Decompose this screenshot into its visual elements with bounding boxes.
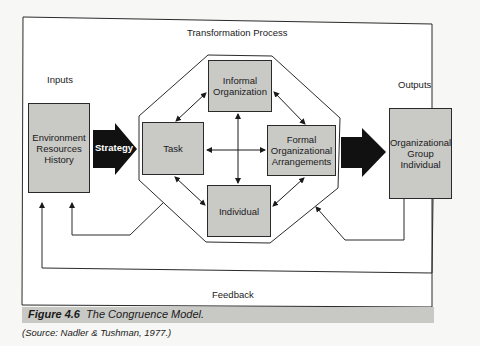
informal-organization-box: Informal Organization <box>208 60 272 112</box>
feedback-label: Feedback <box>212 289 254 300</box>
transformation-process-label: Transformation Process <box>187 27 288 38</box>
individual-line: Individual <box>219 206 259 217</box>
figure-source: (Source: Nadler & Tushman, 1977.) <box>22 327 171 338</box>
inputs-line: Environment <box>32 132 85 143</box>
inputs-label: Inputs <box>47 74 73 85</box>
figure-caption: Figure 4.6 The Congruence Model. <box>28 308 204 320</box>
task-box: Task <box>142 122 204 175</box>
informal-line: Informal <box>213 75 267 86</box>
formal-line: Organizational <box>271 145 332 156</box>
inputs-box: Environment Resources History <box>28 103 90 193</box>
informal-line: Organization <box>213 86 267 97</box>
inputs-line: History <box>32 154 85 165</box>
outputs-line: Organizational <box>390 137 451 148</box>
formal-arrangements-box: Formal Organizational Arrangements <box>267 125 336 176</box>
outputs-line: Individual <box>390 159 451 170</box>
individual-box: Individual <box>207 185 271 237</box>
task-line: Task <box>163 143 183 154</box>
strategy-label: Strategy <box>95 142 133 153</box>
formal-line: Formal <box>271 134 332 145</box>
figure-title: The Congruence Model. <box>86 308 204 320</box>
figure-number: Figure 4.6 <box>28 308 80 320</box>
inputs-line: Resources <box>32 143 85 154</box>
outputs-line: Group <box>390 148 451 159</box>
outputs-label: Outputs <box>398 79 431 90</box>
outputs-box: Organizational Group Individual <box>389 108 452 199</box>
formal-line: Arrangements <box>271 156 332 167</box>
